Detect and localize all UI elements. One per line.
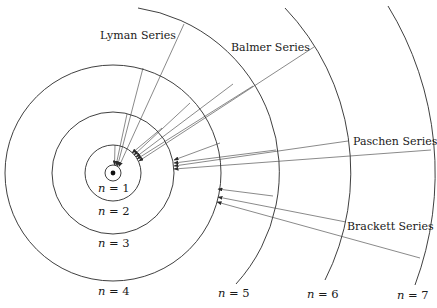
balmer-series-lines	[132, 47, 314, 161]
paschen-series-label: Paschen Series	[353, 135, 437, 148]
level-label-n4: n = 4	[98, 284, 130, 298]
level-label-n7: n = 7	[397, 288, 429, 302]
lyman-series-lines	[115, 24, 185, 167]
level-label-n3: n = 3	[98, 236, 130, 250]
level-label-n2: n = 2	[98, 204, 130, 218]
level-label-n5: n = 5	[218, 286, 250, 300]
level-label-n1: n = 1	[98, 181, 130, 195]
balmer-series-label: Balmer Series	[231, 41, 310, 54]
bohr-model-diagram: Lyman Series Balmer Series Paschen Serie…	[0, 0, 437, 308]
brackett-series-label: Brackett Series	[347, 220, 434, 233]
nucleus	[111, 171, 116, 176]
level-label-n6: n = 6	[307, 287, 339, 301]
lyman-series-label: Lyman Series	[100, 29, 176, 42]
